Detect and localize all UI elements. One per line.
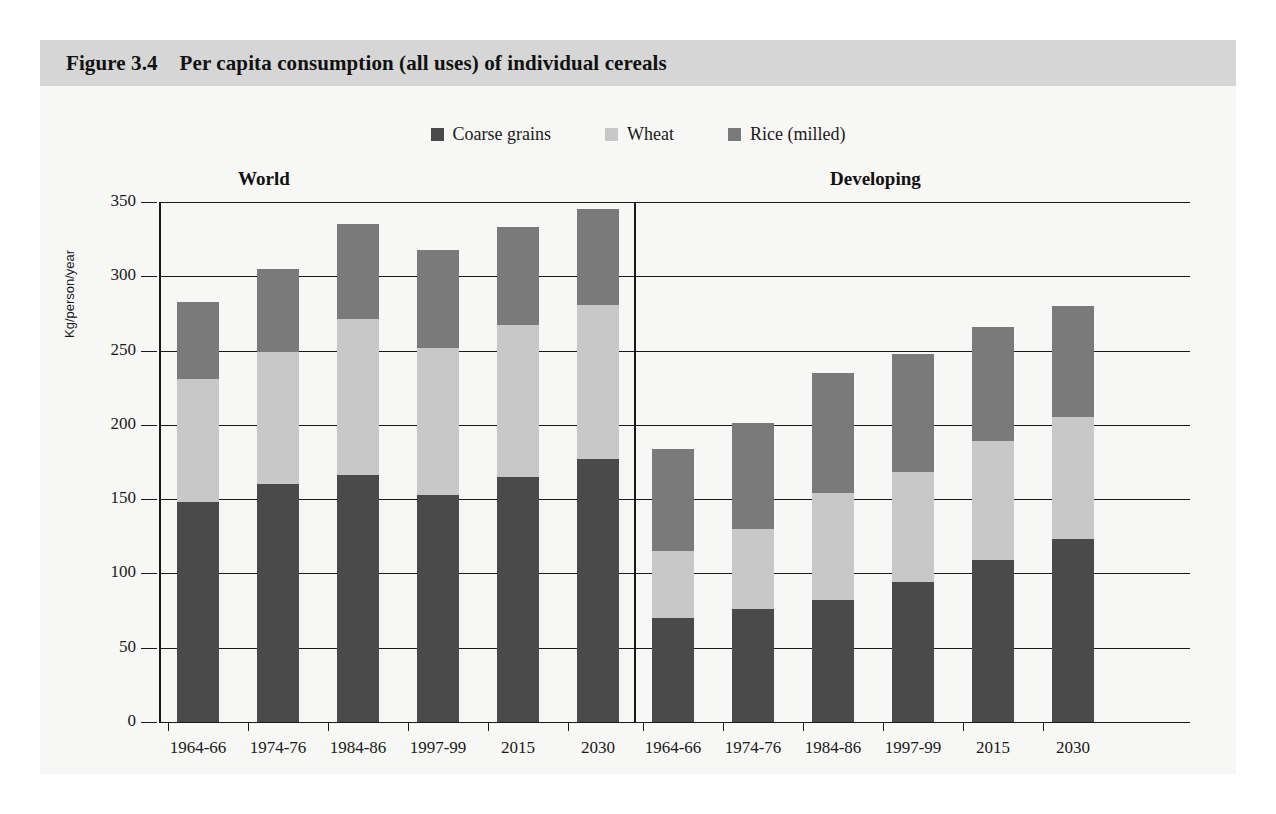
bar-segment [337,319,379,475]
legend-swatch-icon [728,128,741,141]
bar-segment [652,618,694,722]
bar-segment [892,582,934,722]
x-tick-mark [963,722,964,731]
bar-segment [497,325,539,477]
bar-segment [577,305,619,460]
bar-segments [892,354,934,722]
legend-label: Rice (milled) [750,124,845,145]
bar-segment [497,227,539,325]
bars-layer [40,202,1236,722]
legend-label: Coarse grains [453,124,551,145]
x-tick-mark [883,722,884,731]
bar-stack [972,202,1014,722]
figure-card: Figure 3.4Per capita consumption (all us… [40,40,1236,774]
bar-segment [577,209,619,304]
bar-segment [972,327,1014,441]
bar-segments [1052,306,1094,722]
x-axis-line [159,722,1190,723]
bar-segment [417,250,459,348]
bar-segment [972,441,1014,560]
bar-stack [337,202,379,722]
bar-stack [652,202,694,722]
figure-page: Figure 3.4Per capita consumption (all us… [0,0,1276,814]
x-tick-label: 2030 [1018,738,1128,758]
legend-label: Wheat [627,124,674,145]
bar-segments [177,302,219,722]
bar-segments [337,224,379,722]
bar-segment [1052,306,1094,417]
bar-segments [417,250,459,722]
x-tick-mark [643,722,644,731]
bar-stack [892,202,934,722]
bar-segment [337,475,379,722]
figure-title-band: Figure 3.4Per capita consumption (all us… [40,40,1236,86]
panel-title-world: World [238,168,290,190]
page-title: Figure 3.4Per capita consumption (all us… [66,51,667,76]
x-tick-mark [1043,722,1044,731]
bar-segment [177,302,219,379]
figure-number: Figure 3.4 [66,51,158,75]
bar-stack [577,202,619,722]
bar-stack [732,202,774,722]
bar-segment [732,423,774,528]
x-tick-mark [723,722,724,731]
bar-segment [497,477,539,722]
bar-segments [257,269,299,722]
x-tick-mark [408,722,409,731]
plot-area: World Developing Kg/person/year 05010015… [40,160,1236,774]
bar-segment [257,484,299,722]
bar-segments [497,227,539,722]
x-tick-mark [488,722,489,731]
bar-segment [812,373,854,493]
bar-segment [257,352,299,484]
bar-segment [337,224,379,319]
bar-segment [577,459,619,722]
panel-title-developing: Developing [830,168,921,190]
figure-title: Per capita consumption (all uses) of ind… [180,51,667,75]
bar-stack [417,202,459,722]
bar-segment [1052,417,1094,539]
bar-segment [812,493,854,600]
bar-segments [812,373,854,722]
bar-segments [577,209,619,722]
legend-item: Rice (milled) [728,124,845,145]
bar-segment [732,609,774,722]
bar-segments [972,327,1014,722]
bar-segment [652,551,694,618]
bar-segment [892,472,934,582]
bar-stack [812,202,854,722]
bar-segment [732,529,774,609]
bar-segments [652,449,694,722]
x-tick-mark [248,722,249,731]
bar-segment [177,502,219,722]
bar-stack [497,202,539,722]
bar-stack [257,202,299,722]
bar-segment [417,495,459,722]
legend-swatch-icon [605,128,618,141]
x-tick-mark [568,722,569,731]
bar-segment [1052,539,1094,722]
bar-segment [812,600,854,722]
bar-segment [417,348,459,495]
x-tick-mark [803,722,804,731]
legend-swatch-icon [431,128,444,141]
bar-stack [1052,202,1094,722]
bar-segment [177,379,219,502]
legend-item: Wheat [605,124,674,145]
chart-legend: Coarse grainsWheatRice (milled) [40,124,1236,145]
y-tick-mark [141,722,157,723]
bar-segment [892,354,934,473]
x-tick-mark [328,722,329,731]
bar-segment [972,560,1014,722]
legend-item: Coarse grains [431,124,551,145]
bar-stack [177,202,219,722]
x-tick-mark [168,722,169,731]
bar-segment [257,269,299,352]
bar-segment [652,449,694,552]
bar-segments [732,423,774,722]
